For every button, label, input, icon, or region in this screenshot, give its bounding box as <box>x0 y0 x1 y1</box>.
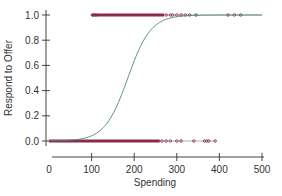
y-tick-label: 0.2 <box>25 110 39 121</box>
x-tick-label: 300 <box>168 164 185 175</box>
logistic-regression-chart: 0.00.20.40.60.81.0 Respond to Offer 0100… <box>0 0 282 196</box>
y-tick-label: 0.0 <box>25 136 39 147</box>
x-axis: 0100200300400500 Spending <box>46 153 271 188</box>
plot-area <box>46 14 262 143</box>
y-tick-label: 0.4 <box>25 85 39 96</box>
x-tick-label: 500 <box>254 164 271 175</box>
x-tick-label: 400 <box>211 164 228 175</box>
y-tick-label: 1.0 <box>25 10 39 21</box>
y-axis: 0.00.20.40.60.81.0 Respond to Offer <box>3 10 50 147</box>
y-axis-label: Respond to Offer <box>3 39 14 116</box>
x-tick-label: 100 <box>83 164 100 175</box>
y-tick-label: 0.6 <box>25 60 39 71</box>
x-tick-label: 200 <box>126 164 143 175</box>
x-axis-label: Spending <box>134 177 176 188</box>
x-tick-label: 0 <box>46 164 52 175</box>
y-tick-label: 0.8 <box>25 35 39 46</box>
logistic-fit-curve <box>49 15 262 141</box>
